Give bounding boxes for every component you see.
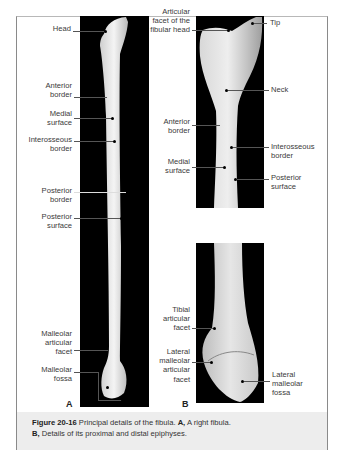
leader-interosseous-border-b <box>233 147 269 148</box>
label-tibial-articular-facet: Tibial articular facet <box>150 305 190 333</box>
label-posterior-border: Posterior border <box>30 186 72 204</box>
leader-tip <box>254 23 267 24</box>
label-medial-surface: Medial surface <box>30 109 72 127</box>
label-neck: Neck <box>271 85 301 94</box>
marker-malleolar-articular-facet <box>106 386 109 389</box>
leader-malleolar-fossa <box>74 372 98 373</box>
leader-malleolar-articular-facet <box>74 350 108 351</box>
leader-medial-surface-b <box>192 167 224 168</box>
label-head: Head <box>20 24 71 33</box>
label-lateral-malleolar-articular-facet: Lateral malleolar articular facet <box>150 347 190 384</box>
caption-b-label: B, <box>32 429 40 438</box>
leader-posterior-surface-b <box>237 179 269 180</box>
marker-head <box>104 30 107 33</box>
label-malleolar-fossa: Malleolar fossa <box>30 365 72 383</box>
leader-tibial-articular-facet <box>192 328 214 329</box>
label-lateral-malleolar-fossa: Lateral malleolar fossa <box>272 370 312 398</box>
panel-a-letter: A <box>66 399 73 409</box>
leader-lateral-malleolar-fossa <box>244 381 270 382</box>
marker-articular-facet <box>227 29 230 32</box>
leader-posterior-border <box>74 192 126 193</box>
label-anterior-border-b: Anterior border <box>150 117 190 135</box>
label-articular-facet: Articular facet of the fibular head <box>150 7 190 35</box>
caption-b-text: Details of its proximal and distal epiph… <box>40 429 187 438</box>
fibula-distal-image <box>196 243 264 403</box>
label-malleolar-articular-facet: Malleolar articular facet <box>30 329 72 357</box>
marker-posterior-surface <box>120 217 123 220</box>
marker-medial-surface <box>111 117 114 120</box>
label-posterior-surface: Posterior surface <box>30 212 72 230</box>
marker-tibial-articular-facet <box>213 327 216 330</box>
leader-medial-surface <box>74 118 112 119</box>
figure-caption: Figure 20-16 Principal details of the fi… <box>17 412 327 450</box>
caption-a-text: A right fibula. <box>185 418 231 427</box>
label-tip: Tip <box>270 18 300 27</box>
leader-anterior-border <box>74 97 107 98</box>
panel-b-letter: B <box>182 399 189 409</box>
leader-malleolar-fossa-bottom <box>98 400 122 401</box>
marker-interosseous-border <box>113 140 116 143</box>
leader-lateral-malleolar-articular-facet <box>192 362 211 363</box>
leader-malleolar-fossa-vertical <box>98 372 99 400</box>
fibula-bone-image <box>80 16 149 407</box>
leader-interosseous-border <box>74 141 114 142</box>
marker-medial-surface-b <box>223 166 226 169</box>
label-medial-surface-b: Medial surface <box>150 157 190 175</box>
marker-lateral-malleolar-articular-facet <box>210 361 213 364</box>
label-posterior-surface-b: Posterior surface <box>271 173 321 191</box>
label-interosseous-border-b: Interosseous border <box>271 142 331 160</box>
leader-posterior-surface <box>74 218 121 219</box>
leader-head <box>73 31 105 32</box>
label-interosseous-border: Interosseous border <box>14 135 72 153</box>
leader-articular-facet <box>192 30 228 31</box>
leader-neck <box>228 90 269 91</box>
label-anterior-border: Anterior border <box>30 81 72 99</box>
marker-malleolar-fossa <box>121 399 124 402</box>
caption-main: Principal details of the fibula. <box>77 418 178 427</box>
leader-anterior-border-b <box>192 125 220 126</box>
figure-number: Figure 20-16 <box>32 418 77 427</box>
